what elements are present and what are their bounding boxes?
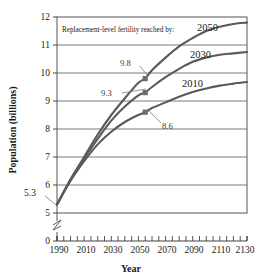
xtick-label-2090: 2090 [185, 245, 204, 255]
xtick-label-2030: 2030 [104, 245, 123, 255]
xtick-label-1990: 1990 [50, 245, 69, 255]
xtick-label-2130: 2130 [236, 245, 255, 255]
chart-canvas: Replacement-level fertility reached by: … [0, 0, 267, 279]
y-axis-ticks [53, 17, 57, 241]
x-axis-title: Year [121, 263, 142, 274]
x-axis-tick-labels: 1990 2010 2030 2050 2070 2090 2110 2130 [50, 245, 255, 255]
leader-line-53 [45, 196, 56, 205]
axis-break-icon [53, 220, 61, 230]
ytick-label-12: 12 [41, 12, 51, 22]
xtick-label-2010: 2010 [77, 245, 96, 255]
y-axis-tick-labels: 12 11 10 9 8 7 6 5 0 [41, 12, 51, 246]
ytick-label-10: 10 [41, 68, 51, 78]
ytick-label-7: 7 [45, 152, 50, 162]
ytick-label-8: 8 [45, 124, 50, 134]
point-label-98: 9.8 [120, 58, 131, 68]
x-axis-minor-ticks [57, 236, 247, 241]
ytick-label-11: 11 [41, 40, 50, 50]
xtick-label-2050: 2050 [131, 245, 150, 255]
ytick-label-5: 5 [45, 208, 50, 218]
series-label-2030: 2030 [190, 49, 211, 60]
series-label-2050: 2050 [197, 22, 218, 33]
plot-area-frame [57, 17, 247, 213]
y-axis-title: Population (billions) [7, 87, 19, 174]
population-projection-chart: Replacement-level fertility reached by: … [0, 0, 267, 279]
data-point-marker-2050 [143, 76, 148, 81]
series-label-2010: 2010 [182, 78, 203, 89]
ytick-label-9: 9 [45, 96, 50, 106]
annotation-text: Replacement-level fertility reached by: [62, 26, 174, 34]
data-point-marker-2030 [143, 90, 148, 95]
xtick-label-2110: 2110 [212, 245, 231, 255]
point-label-93: 9.3 [101, 88, 112, 98]
point-label-53: 5.3 [24, 188, 36, 198]
ytick-label-6: 6 [45, 180, 50, 190]
data-point-marker-2010 [143, 110, 148, 115]
xtick-label-2070: 2070 [158, 245, 177, 255]
point-label-86: 8.6 [162, 121, 173, 131]
